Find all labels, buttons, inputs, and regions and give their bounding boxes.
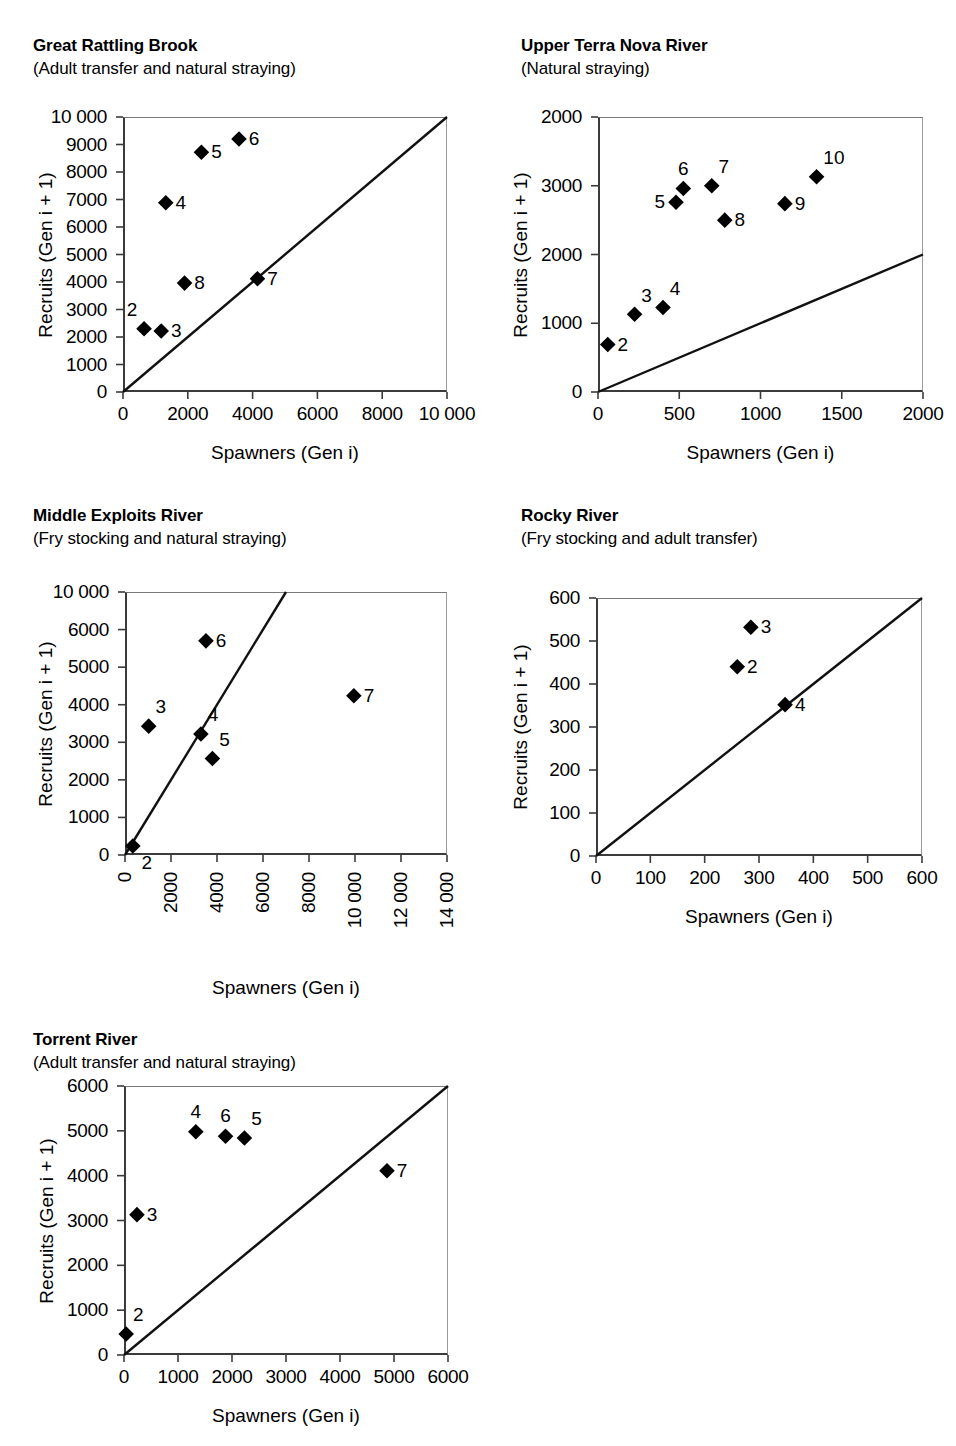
x-tick-label: 3000 xyxy=(265,1366,306,1388)
y-axis-title: Recruits (Gen i + 1) xyxy=(36,1138,58,1303)
point-label: 4 xyxy=(191,1102,202,1121)
x-tick-label: 5000 xyxy=(373,1366,414,1388)
x-tick-label: 6000 xyxy=(427,1366,468,1388)
panel-title: Torrent River xyxy=(33,1030,296,1050)
panel-heading-5: Torrent River(Adult transfer and natural… xyxy=(33,1030,296,1072)
data-point-marker xyxy=(237,1130,253,1146)
x-axis-title: Spawners (Gen i) xyxy=(212,1405,360,1427)
panel-5: Torrent River(Adult transfer and natural… xyxy=(0,0,956,1446)
plot-canvas xyxy=(124,1086,448,1355)
point-label: 6 xyxy=(220,1106,231,1125)
data-point-marker xyxy=(379,1163,395,1179)
y-tick-label: 0 xyxy=(0,1344,108,1366)
figure-scatter-panels: Great Rattling Brook(Adult transfer and … xyxy=(0,0,956,1446)
data-point-marker xyxy=(129,1207,145,1223)
data-point-marker xyxy=(188,1124,204,1140)
point-label: 2 xyxy=(133,1305,144,1324)
x-tick-label: 2000 xyxy=(211,1366,252,1388)
plot-area-5: 0100020003000400050006000010002000300040… xyxy=(124,1086,448,1355)
x-tick-label: 4000 xyxy=(319,1366,360,1388)
panel-subtitle: (Adult transfer and natural straying) xyxy=(33,1053,296,1073)
x-tick-label: 1000 xyxy=(157,1366,198,1388)
data-point-marker xyxy=(118,1326,134,1342)
data-point-marker xyxy=(218,1128,234,1144)
point-label: 7 xyxy=(397,1161,408,1180)
replacement-reference-line xyxy=(124,1086,448,1355)
point-label: 5 xyxy=(251,1109,262,1128)
x-tick-label: 0 xyxy=(119,1366,129,1388)
point-label: 3 xyxy=(147,1205,158,1224)
y-tick-label: 6000 xyxy=(0,1075,108,1097)
